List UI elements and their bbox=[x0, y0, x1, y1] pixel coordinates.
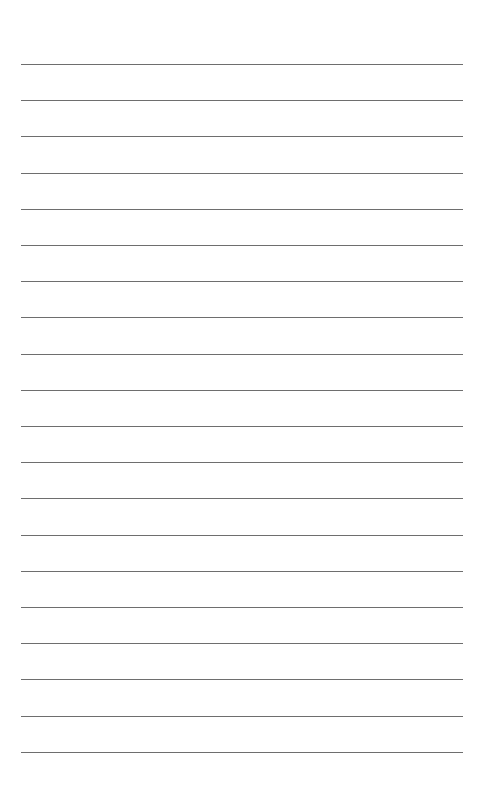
ruled-line bbox=[21, 535, 463, 536]
ruled-line bbox=[21, 643, 463, 644]
lined-paper-page bbox=[0, 0, 485, 799]
ruled-line bbox=[21, 64, 463, 65]
ruled-line bbox=[21, 498, 463, 499]
ruled-line bbox=[21, 100, 463, 101]
ruled-line bbox=[21, 245, 463, 246]
ruled-line bbox=[21, 752, 463, 753]
ruled-line bbox=[21, 317, 463, 318]
ruled-line bbox=[21, 607, 463, 608]
ruled-line bbox=[21, 136, 463, 137]
ruled-line bbox=[21, 426, 463, 427]
ruled-line bbox=[21, 281, 463, 282]
ruled-line bbox=[21, 173, 463, 174]
ruled-line bbox=[21, 462, 463, 463]
ruled-line bbox=[21, 679, 463, 680]
ruled-line bbox=[21, 571, 463, 572]
ruled-line bbox=[21, 716, 463, 717]
ruled-line bbox=[21, 209, 463, 210]
ruled-line bbox=[21, 390, 463, 391]
ruled-line bbox=[21, 354, 463, 355]
